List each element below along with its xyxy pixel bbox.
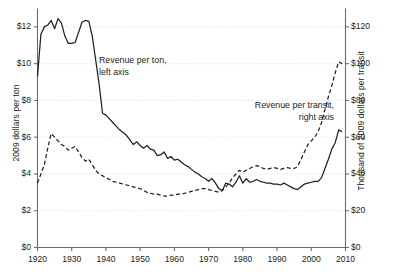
x-tick-label: 1980 bbox=[226, 254, 260, 264]
annotation-line-1: Revenue per transit, bbox=[218, 100, 334, 112]
y-tick-label-right: $80 bbox=[351, 95, 381, 105]
y-tick-label-left: $8 bbox=[5, 95, 31, 105]
annotation-line-2: left axis bbox=[99, 67, 167, 79]
left-axis-title: 2009 dollars per ton bbox=[11, 63, 21, 183]
chart-plot-area bbox=[0, 0, 395, 278]
annotation-line-2: right axis bbox=[218, 112, 334, 124]
series-line-revenue-per-transit bbox=[38, 62, 343, 196]
y-tick-label-left: $0 bbox=[5, 242, 31, 252]
x-tick-label: 1920 bbox=[21, 254, 55, 264]
y-tick-label-right: $40 bbox=[351, 168, 381, 178]
y-tick-label-left: $6 bbox=[5, 132, 31, 142]
x-tick-label: 1960 bbox=[157, 254, 191, 264]
chart-container: 2009 dollars per ton Thousand of 2009 do… bbox=[0, 0, 395, 278]
y-tick-label-left: $10 bbox=[5, 58, 31, 68]
y-tick-label-right: $60 bbox=[351, 132, 381, 142]
y-tick-label-right: $20 bbox=[351, 205, 381, 215]
y-tick-label-left: $4 bbox=[5, 168, 31, 178]
y-tick-label-left: $2 bbox=[5, 205, 31, 215]
y-tick-label-right: $100 bbox=[351, 58, 381, 68]
x-tick-label: 1940 bbox=[89, 254, 123, 264]
x-tick-label: 2000 bbox=[294, 254, 328, 264]
x-tick-label: 1970 bbox=[192, 254, 226, 264]
y-tick-label-right: $0 bbox=[351, 242, 381, 252]
y-tick-label-right: $120 bbox=[351, 21, 381, 31]
y-tick-label-left: $12 bbox=[5, 21, 31, 31]
x-tick-label: 2010 bbox=[329, 254, 363, 264]
x-tick-label: 1930 bbox=[55, 254, 89, 264]
x-tick-label: 1950 bbox=[123, 254, 157, 264]
annotation-line-1: Revenue per ton, bbox=[99, 55, 167, 67]
annotation-revenue-per-transit: Revenue per transit, right axis bbox=[218, 100, 334, 123]
x-tick-label: 1990 bbox=[260, 254, 294, 264]
annotation-revenue-per-ton: Revenue per ton, left axis bbox=[99, 55, 167, 78]
